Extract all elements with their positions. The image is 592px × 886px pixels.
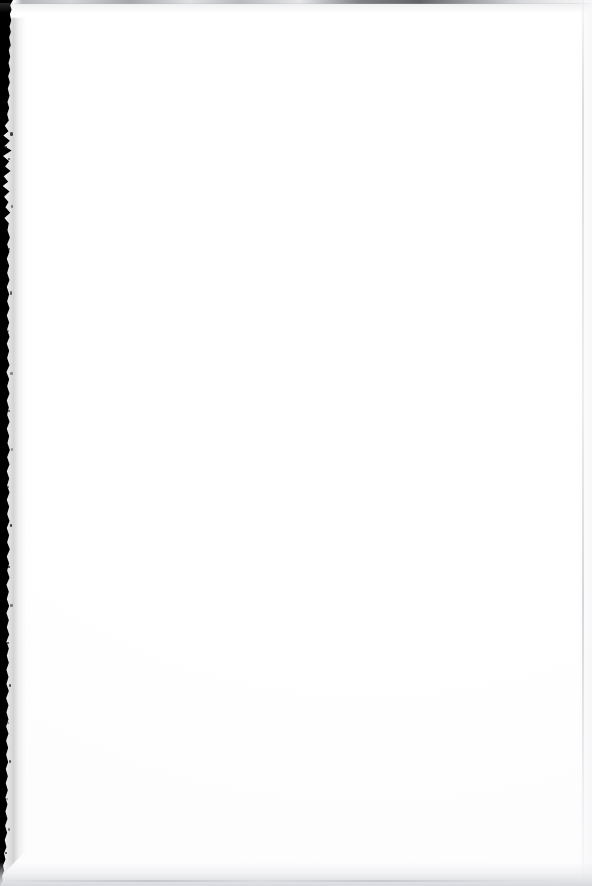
gutter-fleck: [6, 798, 8, 800]
gutter-dust-flecks: [0, 0, 30, 886]
gutter-fleck: [11, 205, 13, 208]
gutter-fleck: [10, 524, 12, 527]
gutter-fleck: [9, 684, 11, 687]
bottom-edge-line: [0, 880, 592, 882]
gutter-fleck: [7, 722, 9, 724]
right-edge-halo: [578, 0, 592, 886]
gutter-fleck: [9, 760, 11, 763]
gutter-fleck: [7, 96, 9, 98]
gutter-fleck: [11, 448, 13, 451]
gutter-fleck: [8, 248, 10, 250]
gutter-fleck: [9, 44, 11, 47]
gutter-fleck: [5, 146, 7, 149]
right-edge-rule: [582, 0, 584, 886]
gutter-fleck: [7, 330, 9, 332]
scanned-page: [0, 0, 592, 886]
gutter-fleck: [5, 852, 7, 854]
gutter-fleck: [10, 291, 12, 295]
gutter-fleck: [10, 604, 13, 607]
gutter-fleck: [7, 486, 9, 488]
bottom-edge-shadow: [0, 862, 592, 886]
gutter-fleck: [10, 372, 13, 375]
gutter-fleck: [8, 410, 10, 412]
top-edge-soft-shadow: [0, 3, 592, 13]
gutter-fleck: [8, 158, 10, 160]
gutter-fleck: [8, 566, 10, 568]
gutter-fleck: [10, 132, 13, 136]
page-content-area: [34, 20, 574, 860]
scanner-gutter-strip: [0, 0, 34, 886]
gutter-fleck: [8, 828, 10, 831]
gutter-fleck: [7, 642, 9, 644]
